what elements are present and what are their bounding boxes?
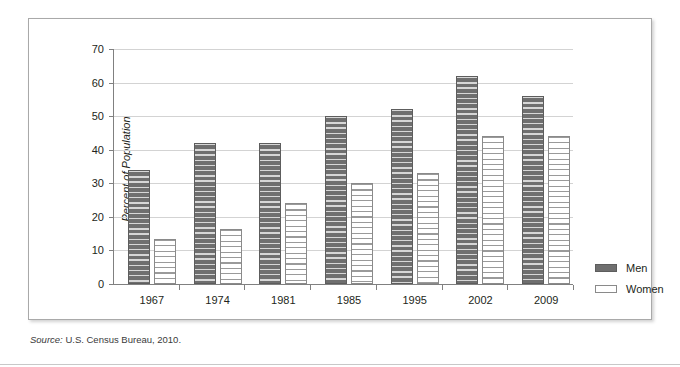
- bar-group: [518, 49, 574, 284]
- y-tick-label: 70: [92, 43, 104, 55]
- bar-group: [124, 49, 180, 284]
- bar-men-1967: [128, 170, 150, 284]
- x-tick-label: 1995: [402, 294, 426, 306]
- bar-group: [190, 49, 246, 284]
- x-tick-label: 1985: [337, 294, 361, 306]
- x-tick-mark: [244, 285, 245, 290]
- bar-men-2009: [522, 96, 544, 284]
- y-tick-label: 40: [92, 144, 104, 156]
- y-tick-label: 10: [92, 244, 104, 256]
- y-tick-label: 0: [98, 278, 104, 290]
- y-tick-label: 30: [92, 177, 104, 189]
- bar-men-1995: [391, 109, 413, 284]
- x-tick-label: 1981: [271, 294, 295, 306]
- legend-label-women: Women: [626, 283, 664, 295]
- source-note: Source: U.S. Census Bureau, 2010.: [30, 334, 181, 345]
- x-tick-mark: [376, 285, 377, 290]
- bar-men-2002: [456, 76, 478, 284]
- bar-men-1974: [194, 143, 216, 284]
- y-tick-label: 20: [92, 211, 104, 223]
- bar-women-1985: [351, 183, 373, 284]
- x-tick-mark: [310, 285, 311, 290]
- bar-women-1981: [285, 203, 307, 284]
- figure-frame: Percent of Population 010203040506070 19…: [28, 18, 652, 320]
- bottom-rule: [0, 364, 680, 365]
- bar-women-1995: [417, 173, 439, 284]
- plot-area: 010203040506070 196719741981198519952002…: [113, 49, 573, 302]
- plot-box: 010203040506070 196719741981198519952002…: [113, 49, 573, 284]
- legend-item-men: Men: [595, 257, 664, 278]
- bar-women-2002: [482, 136, 504, 284]
- x-axis-line: [113, 284, 573, 285]
- legend-swatch-men-icon: [595, 264, 617, 272]
- legend-item-women: Women: [595, 278, 664, 299]
- bar-women-1967: [154, 239, 176, 284]
- x-tick-mark: [442, 285, 443, 290]
- legend-swatch-women-icon: [595, 285, 617, 293]
- chart-legend: Men Women: [595, 257, 664, 299]
- y-axis-line: [113, 49, 114, 285]
- y-tick-label: 50: [92, 110, 104, 122]
- x-tick-label: 2009: [534, 294, 558, 306]
- x-tick-label: 2002: [468, 294, 492, 306]
- x-tick-label: 1967: [140, 294, 164, 306]
- bar-women-1974: [220, 229, 242, 284]
- bar-men-1985: [325, 116, 347, 284]
- y-tick-label: 60: [92, 77, 104, 89]
- bar-group: [452, 49, 508, 284]
- source-prefix: Source:: [30, 334, 63, 345]
- source-body: U.S. Census Bureau, 2010.: [63, 334, 181, 345]
- bar-group: [321, 49, 377, 284]
- bar-group: [255, 49, 311, 284]
- x-tick-mark: [507, 285, 508, 290]
- bar-women-2009: [548, 136, 570, 284]
- x-tick-mark: [573, 285, 574, 290]
- legend-label-men: Men: [626, 262, 647, 274]
- x-tick-label: 1974: [205, 294, 229, 306]
- bar-men-1981: [259, 143, 281, 284]
- bar-group: [387, 49, 443, 284]
- x-tick-mark: [179, 285, 180, 290]
